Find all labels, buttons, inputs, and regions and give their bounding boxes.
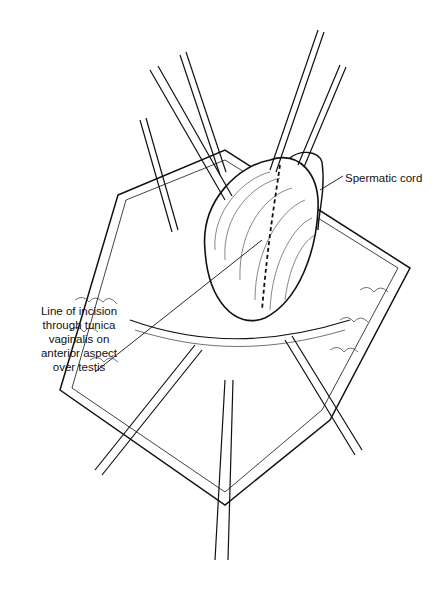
retractor <box>285 336 362 455</box>
testis <box>205 158 319 321</box>
retractor <box>215 380 233 560</box>
retractor <box>140 118 178 232</box>
retractor <box>150 66 232 200</box>
label-line: Line of incision <box>14 304 144 318</box>
label-line: through tunica <box>14 318 144 332</box>
surgical-illustration <box>0 0 436 594</box>
label-line: over testis <box>14 360 144 374</box>
label-incision-line: Line of incision through tunica vaginali… <box>14 304 144 374</box>
label-spermatic-cord: Spermatic cord <box>345 171 422 185</box>
retractor <box>180 52 226 175</box>
retractor <box>270 30 324 172</box>
label-line: anterior aspect <box>14 346 144 360</box>
label-line: vaginalis on <box>14 332 144 346</box>
retractor <box>298 65 346 167</box>
